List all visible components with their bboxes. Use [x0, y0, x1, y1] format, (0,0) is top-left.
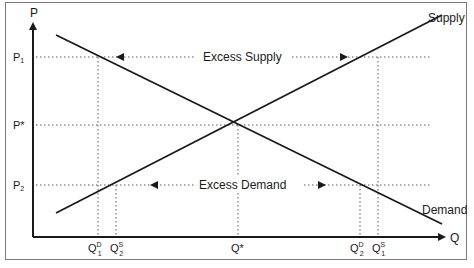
p2-label: P2 — [13, 179, 24, 192]
supply-demand-diagram: P Q P1 P* P2 QD1 QS2 Q* QD2 QS1 Supply D… — [0, 0, 474, 268]
excess-supply-label: Excess Supply — [203, 50, 282, 64]
qs2-label: QS2 — [110, 241, 124, 257]
excess-demand-right-arrow-icon — [318, 181, 326, 189]
qd1-label: QD1 — [88, 241, 102, 257]
pstar-label: P* — [13, 119, 25, 131]
excess-demand-left-arrow-icon — [150, 181, 158, 189]
qstar-label: Q* — [231, 242, 245, 254]
excess-demand-label: Excess Demand — [199, 178, 286, 192]
p1-label: P1 — [13, 51, 24, 64]
price-axis-label: P — [30, 6, 38, 20]
excess-supply-left-arrow-icon — [116, 53, 124, 61]
supply-label: Supply — [428, 11, 465, 25]
demand-label: Demand — [422, 203, 467, 217]
qs1-label: QS1 — [372, 241, 386, 257]
qd2-label: QD2 — [350, 241, 364, 257]
excess-supply-right-arrow-icon — [340, 53, 348, 61]
quantity-axis-label: Q — [450, 231, 459, 245]
